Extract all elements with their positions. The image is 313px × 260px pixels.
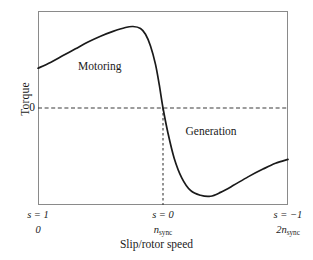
plot-frame xyxy=(38,11,288,205)
x-tick-left-slip: s = 1 xyxy=(13,208,63,221)
x-tick-left: s = 1 0 xyxy=(13,208,63,236)
x-tick-mid: s = 0 nsync xyxy=(138,208,188,236)
x-tick-right-speed: 2nsync xyxy=(263,223,313,236)
x-tick-right-speed-sub: sync xyxy=(287,229,300,237)
x-tick-mid-speed-sub: sync xyxy=(159,229,172,237)
x-tick-right-speed-base: 2n xyxy=(276,224,287,235)
annotation-generation: Generation xyxy=(186,125,237,137)
y-axis-label: Torque xyxy=(19,59,31,139)
x-tick-right: s = −1 2nsync xyxy=(263,208,313,236)
x-axis-label: Slip/rotor speed xyxy=(0,238,313,250)
x-tick-left-speed: 0 xyxy=(13,223,63,236)
x-tick-right-slip: s = −1 xyxy=(263,208,313,221)
torque-speed-figure: Torque 0 Motoring Generation s = 1 0 s =… xyxy=(0,0,313,260)
annotation-motoring: Motoring xyxy=(78,60,121,72)
y-tick-label-zero: 0 xyxy=(25,101,35,113)
x-tick-left-speed-base: 0 xyxy=(35,224,40,235)
x-tick-mid-slip: s = 0 xyxy=(138,208,188,221)
x-tick-mid-speed: nsync xyxy=(138,223,188,236)
